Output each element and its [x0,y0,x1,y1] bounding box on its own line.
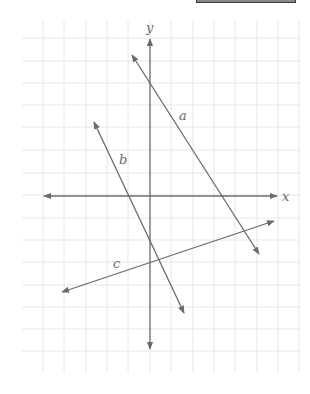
line-c-label: c [113,256,121,271]
coordinate-plane: x y abc [0,0,310,394]
x-axis-label: x [282,189,290,204]
line-a-label: a [179,108,187,123]
line-c [62,221,274,292]
lines-group: abc [62,55,274,313]
y-axis-label: y [145,20,154,35]
line-b-label: b [119,152,127,167]
line-a [132,55,259,254]
